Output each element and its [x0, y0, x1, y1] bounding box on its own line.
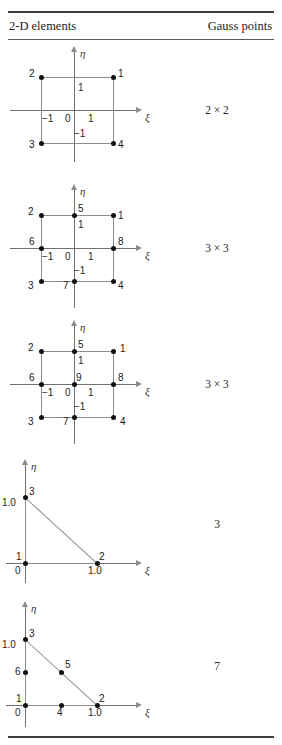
- node-label-1: 1: [118, 68, 124, 79]
- node-label-3: 3: [29, 628, 35, 639]
- element-edge-bottom: [41, 281, 113, 282]
- tick-label-xi-one: 1.0: [88, 707, 102, 718]
- tick-label-eta-neg1: −1: [74, 128, 85, 139]
- xi-axis-arrow: [136, 381, 142, 387]
- node-label-4: 4: [118, 139, 124, 150]
- gauss-points-value: 7: [175, 660, 259, 672]
- node-dot: [23, 495, 28, 500]
- tick-label-xi-neg1: −1: [42, 387, 53, 398]
- gauss-points-value: 3 × 3: [175, 242, 259, 254]
- node-label-2: 2: [99, 551, 105, 562]
- node-label-7: 7: [63, 416, 69, 427]
- node-label-8: 8: [118, 236, 124, 247]
- node-dot: [39, 415, 44, 420]
- eta-axis-line: [74, 190, 75, 308]
- node-dot: [23, 561, 28, 566]
- node-label-2: 2: [29, 68, 35, 79]
- node-dot: [39, 382, 44, 387]
- node-label-1: 1: [16, 693, 22, 704]
- xi-axis-arrow: [136, 560, 142, 566]
- axis-label-eta: η: [31, 461, 36, 472]
- node-label-3: 3: [28, 416, 34, 427]
- node-dot: [39, 246, 44, 251]
- tick-label-eta-neg1: −1: [74, 401, 85, 412]
- node-dot: [39, 75, 44, 80]
- node-dot: [111, 141, 116, 146]
- node-label-1: 1: [120, 343, 126, 354]
- node-dot: [111, 75, 116, 80]
- node-dot: [111, 382, 116, 387]
- node-dot: [39, 141, 44, 146]
- tick-label-origin: 0: [15, 565, 21, 576]
- node-dot: [23, 637, 28, 642]
- eta-axis-arrow: [71, 184, 77, 190]
- node-dot: [39, 349, 44, 354]
- node-dot: [39, 279, 44, 284]
- table-row: 1 2 3 0 1.0 1.0 ξ η 3: [0, 455, 282, 590]
- gauss-points-value: 3: [175, 518, 259, 530]
- eta-axis-arrow: [71, 320, 77, 326]
- tick-label-origin: 0: [65, 387, 71, 398]
- node-dot: [59, 670, 64, 675]
- element-edge-top: [41, 351, 113, 352]
- node-label-2: 2: [99, 693, 105, 704]
- eta-axis-line: [74, 52, 75, 162]
- node-label-7: 7: [63, 280, 69, 291]
- node-dot: [72, 279, 77, 284]
- axis-label-xi: ξ: [145, 386, 150, 397]
- tick-label-eta-one: 1.0: [2, 497, 16, 508]
- node-dot: [111, 246, 116, 251]
- tick-label-eta-one: 1.0: [2, 639, 16, 650]
- node-label-2: 2: [28, 206, 34, 217]
- element-edge-left: [25, 497, 26, 563]
- axis-label-xi: ξ: [145, 250, 150, 261]
- node-dot: [111, 349, 116, 354]
- node-label-4: 4: [57, 707, 63, 718]
- xi-axis-arrow: [136, 702, 142, 708]
- node-label-4: 4: [120, 416, 126, 427]
- node-dot: [111, 415, 116, 420]
- table-row: 1 2 3 4 5 6 7 8 9 −1 0 1 1 −1 ξ η 3 × 3: [0, 318, 282, 452]
- node-dot: [111, 213, 116, 218]
- node-label-6: 6: [15, 666, 21, 677]
- diagram-quad4: 1 2 3 4 −1 0 1 1 −1 ξ η: [0, 44, 175, 178]
- node-dot: [23, 703, 28, 708]
- axis-label-eta: η: [31, 603, 36, 614]
- tick-label-eta-pos1: 1: [78, 82, 84, 93]
- tick-label-xi-pos1: 1: [88, 387, 94, 398]
- element-edge-right: [113, 77, 114, 143]
- tick-label-origin: 0: [65, 113, 71, 124]
- node-dot: [39, 213, 44, 218]
- tick-label-origin: 0: [15, 707, 21, 718]
- tick-label-xi-pos1: 1: [88, 251, 94, 262]
- tick-label-eta-neg1: −1: [74, 265, 85, 276]
- eta-axis-arrow: [71, 46, 77, 52]
- element-edge-bottom: [41, 143, 113, 144]
- tick-label-origin: 0: [65, 251, 71, 262]
- tick-label-xi-one: 1.0: [88, 565, 102, 576]
- rule-top: [8, 11, 274, 13]
- diagram-quad8: 1 2 3 4 5 6 7 8 −1 0 1 1 −1 ξ η: [0, 182, 175, 316]
- node-label-9: 9: [76, 372, 82, 383]
- node-label-5: 5: [78, 339, 84, 350]
- table-row: 1 2 3 4 −1 0 1 1 −1 ξ η 2 × 2: [0, 44, 282, 178]
- node-dot: [111, 279, 116, 284]
- node-label-4: 4: [118, 280, 124, 291]
- node-label-3: 3: [28, 280, 34, 291]
- rule-bottom: [8, 736, 274, 738]
- node-label-3: 3: [29, 486, 35, 497]
- diagram-quad9: 1 2 3 4 5 6 7 8 9 −1 0 1 1 −1 ξ η: [0, 318, 175, 452]
- node-dot: [72, 213, 77, 218]
- eta-axis-arrow: [22, 601, 28, 607]
- node-label-3: 3: [29, 139, 35, 150]
- axis-label-xi: ξ: [145, 707, 150, 718]
- xi-axis-arrow: [136, 107, 142, 113]
- axis-label-xi: ξ: [145, 112, 150, 123]
- node-dot: [72, 349, 77, 354]
- tick-label-eta-pos1: 1: [78, 355, 84, 366]
- element-edge-bottom: [25, 563, 97, 564]
- element-edge-top: [41, 215, 113, 216]
- node-label-6: 6: [29, 236, 35, 247]
- axis-label-eta: η: [80, 322, 85, 333]
- element-edge-bottom: [41, 417, 113, 418]
